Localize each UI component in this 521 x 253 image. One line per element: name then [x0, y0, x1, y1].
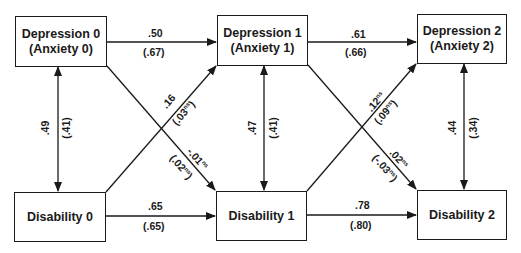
node-depression-0: Depression 0 (Anxiety 0) [15, 16, 107, 67]
edge-label-dis0-dis1-depression: .65 [148, 200, 163, 212]
node-label: Depression 2 [423, 24, 502, 39]
edge-label-dis1-dis2-depression: .78 [355, 199, 370, 211]
edge-label-dis0-dis1-anxiety: (.65) [143, 220, 165, 232]
edge-label-dep0-dis0-anxiety: (.41) [60, 117, 72, 139]
node-disability-2: Disability 2 [417, 190, 507, 240]
node-label: Disability 1 [229, 209, 295, 224]
node-sublabel: (Anxiety 2) [430, 39, 494, 54]
node-sublabel: (Anxiety 0) [29, 42, 93, 57]
path-diagram: Depression 0 (Anxiety 0) Depression 1 (A… [0, 0, 521, 253]
edge-label-dep1-dep2-depression: .61 [351, 28, 366, 40]
edge-label-dep0-dep1-anxiety: (.67) [143, 46, 165, 58]
edge-label-dep1-dis1-depression: .47 [246, 121, 258, 136]
edge-label-dep2-dis2-anxiety: (.34) [467, 117, 479, 139]
node-disability-0: Disability 0 [14, 192, 106, 242]
node-depression-1: Depression 1 (Anxiety 1) [217, 15, 308, 66]
edge-label-dep1-dep2-anxiety: (.66) [345, 46, 367, 58]
node-depression-2: Depression 2 (Anxiety 2) [417, 14, 507, 64]
node-label: Disability 0 [27, 210, 93, 225]
edge-label-dep0-dis0-depression: .49 [39, 121, 51, 136]
edge-label-dis1-dis2-anxiety: (.80) [350, 219, 372, 231]
node-label: Depression 0 [22, 27, 101, 42]
edge-label-dep1-dis1-anxiety: (.41) [267, 117, 279, 139]
node-label: Disability 2 [429, 208, 495, 223]
node-sublabel: (Anxiety 1) [231, 41, 295, 56]
edge-label-dep0-dep1-depression: .50 [148, 27, 163, 39]
node-disability-1: Disability 1 [216, 191, 307, 241]
node-label: Depression 1 [223, 26, 302, 41]
edge-label-dep2-dis2-depression: .44 [446, 121, 458, 136]
